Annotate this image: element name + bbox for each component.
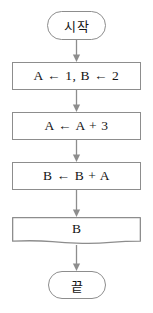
node-end-terminator: 끝 bbox=[48, 271, 106, 299]
node-start-terminator: 시작 bbox=[47, 11, 106, 40]
node-step-a-process: A ← A + 3 bbox=[12, 112, 141, 140]
flowchart-diagram: 시작 A ← 1, B ← 2 A ← A + 3 B ← B + A bbox=[0, 0, 153, 313]
node-output-document: B bbox=[12, 217, 141, 246]
node-step-a-label: A ← A + 3 bbox=[44, 118, 108, 134]
connector-step-b-to-output bbox=[71, 190, 82, 217]
connector-step-a-to-step-b bbox=[71, 140, 82, 162]
connector-start-to-init bbox=[71, 40, 82, 62]
node-step-b-label: B ← B + A bbox=[43, 168, 110, 184]
node-start-label: 시작 bbox=[64, 16, 89, 35]
node-init-label: A ← 1, B ← 2 bbox=[34, 68, 120, 84]
node-end-label: 끝 bbox=[71, 276, 84, 295]
node-init-process: A ← 1, B ← 2 bbox=[12, 62, 141, 90]
node-step-b-process: B ← B + A bbox=[12, 162, 141, 190]
connector-output-to-end bbox=[71, 245, 82, 271]
connector-init-to-step-a bbox=[71, 90, 82, 112]
